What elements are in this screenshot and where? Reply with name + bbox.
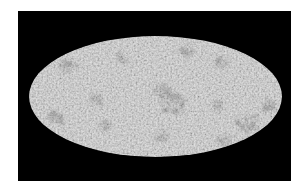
sky-map-content (18, 11, 291, 181)
mollweide-sky-map (18, 11, 291, 181)
noise-texture (18, 11, 291, 181)
sky-map-frame (18, 11, 291, 181)
